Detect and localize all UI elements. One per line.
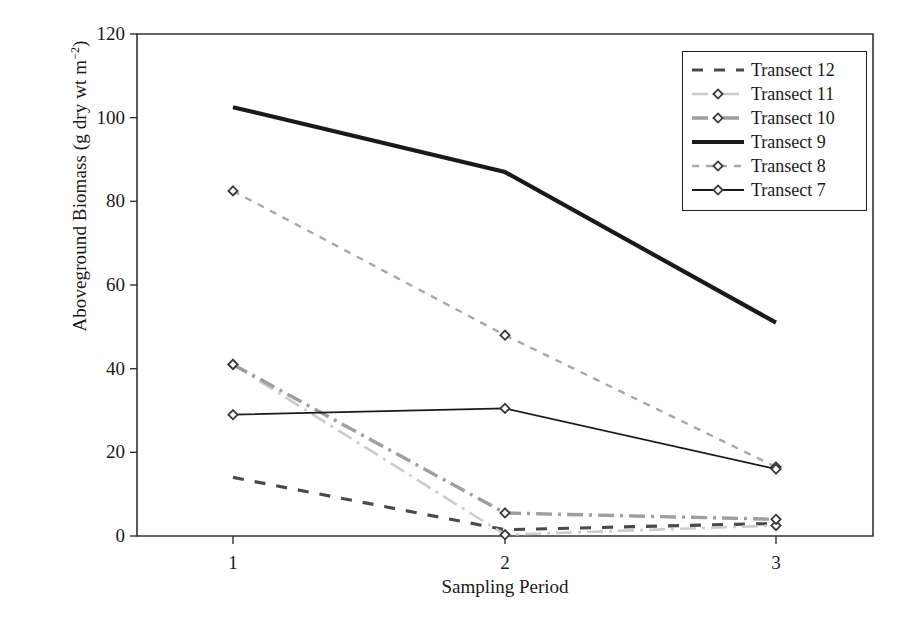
legend-item-label: Transect 10 xyxy=(751,109,835,127)
series-line-transect-7 xyxy=(233,408,776,469)
legend-item-label: Transect 11 xyxy=(751,85,834,103)
legend-item-label: Transect 12 xyxy=(751,61,835,79)
legend-line-sample xyxy=(691,61,745,79)
data-point-marker xyxy=(771,515,780,524)
y-axis-tick-label: 100 xyxy=(79,107,125,129)
x-axis-tick-label: 1 xyxy=(203,552,263,574)
legend-item-transect-11[interactable]: Transect 11 xyxy=(683,82,866,106)
legend-item-transect-10[interactable]: Transect 10 xyxy=(683,106,866,130)
legend-item-label: Transect 7 xyxy=(751,181,826,199)
legend-line-sample xyxy=(691,133,745,151)
x-axis-tick-label: 3 xyxy=(746,552,806,574)
data-point-marker xyxy=(228,186,237,195)
chart-legend: Transect 12Transect 11Transect 10Transec… xyxy=(682,51,867,211)
legend-item-transect-12[interactable]: Transect 12 xyxy=(683,58,866,82)
y-axis-tick-label: 40 xyxy=(79,358,125,380)
legend-key-swatch xyxy=(691,157,745,175)
legend-key-swatch xyxy=(691,133,745,151)
series-line-transect-12 xyxy=(233,477,776,529)
series-line-transect-10 xyxy=(233,364,776,519)
legend-marker-diamond xyxy=(713,113,722,122)
data-point-marker xyxy=(500,331,509,340)
legend-marker-diamond xyxy=(713,161,722,170)
series-line-transect-8 xyxy=(233,191,776,467)
legend-line-sample xyxy=(691,85,745,103)
legend-marker-diamond xyxy=(713,185,722,194)
data-point-marker xyxy=(228,410,237,419)
data-point-marker xyxy=(500,404,509,413)
y-axis-tick-label: 20 xyxy=(79,441,125,463)
y-axis-tick-label: 60 xyxy=(79,274,125,296)
legend-item-transect-7[interactable]: Transect 7 xyxy=(683,178,866,202)
x-axis-tick-label: 2 xyxy=(475,552,535,574)
y-axis-tick-label: 120 xyxy=(79,23,125,45)
legend-marker-diamond xyxy=(713,89,722,98)
legend-item-transect-8[interactable]: Transect 8 xyxy=(683,154,866,178)
legend-line-sample xyxy=(691,109,745,127)
legend-item-transect-9[interactable]: Transect 9 xyxy=(683,130,866,154)
y-axis-tick-label: 0 xyxy=(79,525,125,547)
data-point-marker xyxy=(500,508,509,517)
legend-item-label: Transect 9 xyxy=(751,133,826,151)
legend-key-swatch xyxy=(691,85,745,103)
legend-line-sample xyxy=(691,157,745,175)
legend-item-label: Transect 8 xyxy=(751,157,826,175)
legend-line-sample xyxy=(691,181,745,199)
y-axis-tick-label: 80 xyxy=(79,190,125,212)
legend-key-swatch xyxy=(691,61,745,79)
legend-key-swatch xyxy=(691,109,745,127)
legend-key-swatch xyxy=(691,181,745,199)
chart-figure: Aboveground Biomass (g dry wt m−2) Sampl… xyxy=(0,0,911,626)
